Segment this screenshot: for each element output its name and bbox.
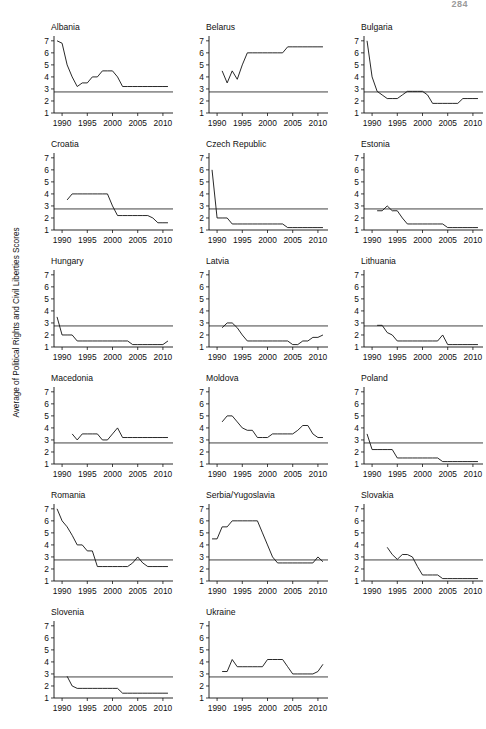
y-tick-label: 4	[354, 189, 359, 199]
y-tick-label: 2	[44, 447, 49, 457]
y-tick-label: 6	[199, 633, 204, 643]
y-tick-label: 1	[44, 576, 49, 586]
panel-title: Latvia	[206, 256, 229, 266]
x-tick-label: 2010	[309, 235, 328, 245]
x-tick-label: 2000	[103, 703, 122, 713]
x-tick-label: 1990	[53, 469, 72, 479]
panel-plot: 123456719901995200020052010	[177, 32, 332, 139]
chart-panel: Latvia123456719901995200020052010	[177, 256, 332, 373]
series-line	[72, 428, 168, 440]
x-tick-label: 1995	[78, 703, 97, 713]
x-tick-label: 2000	[258, 586, 277, 596]
chart-panel: Moldova123456719901995200020052010	[177, 373, 332, 490]
y-tick-label: 3	[44, 669, 49, 679]
chart-panel: Lithuania123456719901995200020052010	[332, 256, 486, 373]
y-tick-label: 2	[199, 330, 204, 340]
panel-title: Czech Republic	[206, 139, 266, 149]
x-tick-label: 2000	[413, 469, 432, 479]
panel-title: Lithuania	[361, 256, 396, 266]
panel-title: Serbia/Yugoslavia	[206, 490, 275, 500]
y-tick-label: 5	[44, 60, 49, 70]
x-tick-label: 1995	[233, 703, 252, 713]
x-tick-label: 1990	[363, 586, 382, 596]
x-tick-label: 2005	[128, 235, 147, 245]
series-line	[222, 660, 323, 674]
x-tick-label: 2000	[103, 469, 122, 479]
y-tick-label: 2	[354, 447, 359, 457]
y-tick-label: 6	[354, 399, 359, 409]
y-tick-label: 3	[354, 435, 359, 445]
x-tick-label: 1990	[363, 469, 382, 479]
x-tick-label: 2010	[464, 352, 483, 362]
y-tick-label: 4	[44, 72, 49, 82]
y-tick-label: 5	[44, 294, 49, 304]
y-tick-label: 7	[44, 270, 49, 280]
y-tick-label: 6	[354, 516, 359, 526]
chart-panel: Poland123456719901995200020052010	[332, 373, 486, 490]
panel-title: Slovakia	[361, 490, 393, 500]
chart-panel: Bulgaria123456719901995200020052010	[332, 22, 486, 139]
y-tick-label: 3	[44, 552, 49, 562]
y-tick-label: 6	[199, 282, 204, 292]
x-tick-label: 1990	[53, 352, 72, 362]
x-tick-label: 2010	[154, 118, 173, 128]
y-tick-label: 7	[44, 36, 49, 46]
panel-title: Ukraine	[206, 607, 236, 617]
y-tick-label: 7	[44, 153, 49, 163]
x-tick-label: 2005	[283, 352, 302, 362]
panel-title: Moldova	[206, 373, 238, 383]
panel-grid: Albania123456719901995200020052010Belaru…	[22, 22, 486, 724]
x-tick-label: 2000	[413, 118, 432, 128]
y-tick-label: 4	[354, 72, 359, 82]
y-tick-label: 4	[44, 540, 49, 550]
y-tick-label: 5	[354, 60, 359, 70]
y-tick-label: 7	[354, 36, 359, 46]
chart-panel: Ukraine123456719901995200020052010	[177, 607, 332, 724]
y-tick-label: 6	[354, 48, 359, 58]
x-tick-label: 1995	[388, 469, 407, 479]
y-tick-label: 5	[354, 411, 359, 421]
panel-plot: 123456719901995200020052010	[22, 32, 177, 139]
y-tick-label: 1	[354, 342, 359, 352]
y-tick-label: 1	[354, 108, 359, 118]
y-tick-label: 2	[199, 447, 204, 457]
y-tick-label: 5	[199, 645, 204, 655]
y-tick-label: 1	[199, 459, 204, 469]
panel-title: Croatia	[51, 139, 79, 149]
x-tick-label: 1995	[233, 586, 252, 596]
panel-plot: 123456719901995200020052010	[332, 149, 486, 256]
y-tick-label: 7	[354, 387, 359, 397]
chart-panel: Romania123456719901995200020052010	[22, 490, 177, 607]
series-line	[57, 41, 168, 87]
x-tick-label: 1995	[388, 118, 407, 128]
small-multiples-figure: Average of Political Rights and Civil Li…	[0, 0, 486, 729]
chart-panel: Slovenia123456719901995200020052010	[22, 607, 177, 724]
y-tick-label: 3	[199, 435, 204, 445]
y-tick-label: 4	[44, 423, 49, 433]
y-tick-label: 4	[199, 540, 204, 550]
y-tick-label: 4	[354, 306, 359, 316]
y-tick-label: 7	[199, 504, 204, 514]
y-tick-label: 6	[199, 516, 204, 526]
x-tick-label: 2005	[438, 469, 457, 479]
y-tick-label: 6	[44, 282, 49, 292]
series-line	[367, 41, 478, 104]
x-tick-label: 2010	[464, 235, 483, 245]
x-tick-label: 2005	[438, 118, 457, 128]
series-line	[67, 676, 168, 693]
x-tick-label: 1995	[78, 352, 97, 362]
x-tick-label: 2010	[464, 469, 483, 479]
y-tick-label: 1	[354, 459, 359, 469]
y-tick-label: 5	[44, 645, 49, 655]
y-tick-label: 2	[44, 213, 49, 223]
y-tick-label: 3	[44, 435, 49, 445]
panel-plot: 123456719901995200020052010	[177, 266, 332, 373]
y-tick-label: 4	[44, 657, 49, 667]
y-tick-label: 1	[199, 693, 204, 703]
x-tick-label: 2010	[154, 586, 173, 596]
y-tick-label: 4	[199, 72, 204, 82]
y-tick-label: 1	[44, 342, 49, 352]
y-tick-label: 2	[44, 330, 49, 340]
y-tick-label: 6	[199, 399, 204, 409]
chart-panel: Macedonia123456719901995200020052010	[22, 373, 177, 490]
